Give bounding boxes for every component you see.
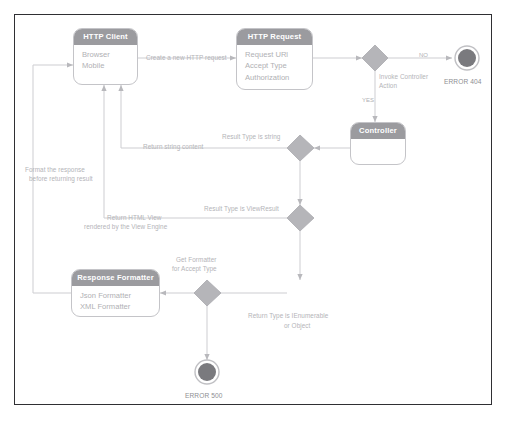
node-controller[interactable]: Controller [350,122,406,165]
label-return-type-line2: or Object [284,322,310,330]
node-http-request-body: Request URl Accept Type Authorization [237,45,312,88]
node-controller-title: Controller [351,123,405,139]
label-create-new-http-request: Create a new HTTP request [146,54,227,62]
node-http-request-item-accept-type: Accept Type [245,60,305,72]
diagram-canvas: HTTP Client Browser Mobile HTTP Request … [0,0,512,423]
node-http-client-title: HTTP Client [74,29,137,45]
caption-error-500: ERROR 500 [185,392,223,400]
node-response-formatter-item-json: Json Formatter [80,290,152,302]
node-controller-body [351,139,405,147]
label-format-response-line2: before returning result [29,175,93,183]
node-response-formatter-title: Response Formatter [72,270,159,286]
node-http-client-item-browser: Browser [82,49,130,61]
label-guard-yes: YES [362,96,374,104]
node-response-formatter[interactable]: Response Formatter Json Formatter XML Fo… [71,269,160,317]
label-get-formatter-line1: Get Formatter [176,256,216,264]
label-return-html-view-line1: Return HTML View [107,214,161,222]
label-get-formatter-line2: for Accept Type [172,265,217,273]
node-http-client-item-mobile: Mobile [82,60,130,72]
caption-error-404: ERROR 404 [444,78,482,86]
label-result-type-is-viewresult: Result Type is ViewResult [204,205,279,213]
node-http-request-title: HTTP Request [237,29,312,45]
node-http-client[interactable]: HTTP Client Browser Mobile [73,28,138,85]
node-response-formatter-body: Json Formatter XML Formatter [72,286,159,317]
node-http-client-body: Browser Mobile [74,45,137,76]
node-http-request-item-request-url: Request URl [245,49,305,61]
label-return-string-content: Return string content [143,143,203,151]
node-response-formatter-item-xml: XML Formatter [80,301,152,313]
label-guard-no: NO [419,51,428,59]
label-result-type-is-string: Result Type is string [222,133,280,141]
label-return-html-view-line2: rendered by the View Engine [84,223,167,231]
label-invoke-controller-action-line2: Action [379,82,397,90]
label-format-response-line1: Format the response [25,166,85,174]
node-http-request-item-authorization: Authorization [245,72,305,84]
label-invoke-controller-action-line1: Invoke Controller [379,73,428,81]
node-http-request[interactable]: HTTP Request Request URl Accept Type Aut… [236,28,313,90]
label-return-type-line1: Return Type is IEnumerable [248,312,328,320]
